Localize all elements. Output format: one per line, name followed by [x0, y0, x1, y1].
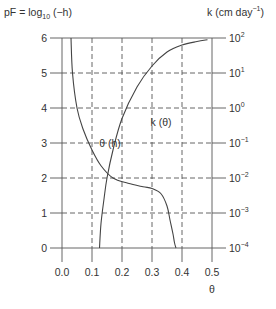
y-right-tick-label: 10−4	[229, 241, 249, 254]
curves	[71, 38, 208, 248]
labels: 012345610−410−310−210−11001011020.00.10.…	[4, 5, 264, 295]
y-right-tick-label: 100	[229, 101, 245, 114]
y-left-tick-label: 6	[41, 32, 47, 44]
y-right-tick-label: 10−1	[229, 136, 249, 149]
x-tick-label: 0.2	[115, 266, 130, 278]
y-left-axis-label: pF = log10 (−h)	[4, 6, 72, 20]
x-axis-label: θ	[209, 283, 215, 295]
y-left-tick-label: 1	[41, 207, 47, 219]
y-left-tick-label: 2	[41, 172, 47, 184]
y-right-axis-label: k (cm day−1)	[207, 5, 264, 18]
y-right-tick-label: 102	[229, 31, 245, 44]
x-tick-label: 0.5	[205, 266, 220, 278]
chart-svg: 012345610−410−310−210−11001011020.00.10.…	[0, 0, 276, 309]
x-tick-label: 0.1	[85, 266, 100, 278]
y-left-tick-label: 5	[41, 67, 47, 79]
y-right-tick-label: 101	[229, 66, 245, 79]
axes	[50, 38, 226, 262]
x-tick-label: 0.0	[55, 266, 70, 278]
y-left-tick-label: 0	[41, 242, 47, 254]
y-left-tick-label: 3	[41, 137, 47, 149]
curve-annotation: k (θ)	[151, 116, 172, 128]
x-tick-label: 0.3	[145, 266, 160, 278]
curve-annotation: θ (h)	[99, 137, 121, 149]
x-tick-label: 0.4	[175, 266, 190, 278]
y-left-tick-label: 4	[41, 102, 47, 114]
y-right-tick-label: 10−3	[229, 206, 249, 219]
grid-lines	[62, 38, 212, 248]
y-right-tick-label: 10−2	[229, 171, 249, 184]
